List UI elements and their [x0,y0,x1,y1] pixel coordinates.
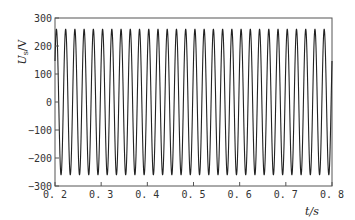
x-tick-label: 0. 7 [274,189,298,200]
waveform-series [55,29,332,175]
y-tick-label: 0 [46,97,52,108]
x-tick-label: 0. 8 [320,189,344,200]
x-tick-label: 0. 2 [43,189,67,200]
x-tick-label: 0. 6 [228,189,252,200]
y-tick-label: −100 [28,125,52,136]
y-tick-label: 100 [34,69,52,80]
y-axis-ticks: 3002001000−100−200−300 [28,13,59,192]
y-tick-label: 300 [34,13,52,24]
x-axis-label: t/s [305,205,319,218]
y-axis-label: Us/V [16,38,30,64]
x-tick-label: 0. 5 [181,189,205,200]
x-tick-label: 0. 3 [89,189,113,200]
voltage-waveform-chart: 3002001000−100−200−300 0. 20. 30. 40. 50… [0,0,355,220]
x-axis-ticks: 0. 20. 30. 40. 50. 60. 70. 8 [43,182,344,200]
y-tick-label: −200 [28,153,52,164]
x-tick-label: 0. 4 [135,189,159,200]
y-tick-label: 200 [34,41,52,52]
